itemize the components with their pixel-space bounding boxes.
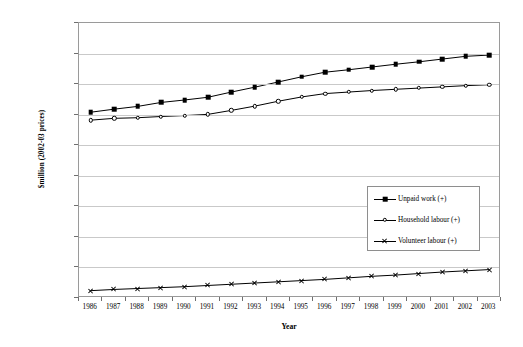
data-point-marker <box>393 272 399 278</box>
x-axis-tick-mark <box>195 297 196 301</box>
x-axis-tick-mark <box>336 297 337 301</box>
x-axis-tick-mark <box>289 297 290 301</box>
y-axis-tick-mark <box>74 266 78 267</box>
data-point-marker <box>205 282 211 288</box>
y-axis-title: $million (2002-03 prices) <box>38 69 46 229</box>
data-point-marker <box>135 104 140 109</box>
legend-marker-open-circle-icon <box>374 215 396 225</box>
x-axis-tick-mark <box>172 297 173 301</box>
data-point-marker <box>112 107 117 112</box>
data-point-marker <box>487 53 492 58</box>
data-point-marker <box>229 90 234 95</box>
data-point-marker <box>182 98 187 103</box>
gridline <box>79 145 499 146</box>
gridline <box>79 176 499 177</box>
x-axis-tick-mark <box>430 297 431 301</box>
data-point-marker <box>369 273 375 279</box>
legend-label: Volunteer labour (+) <box>398 237 457 245</box>
x-axis-tick-mark <box>219 297 220 301</box>
data-point-marker <box>416 271 422 277</box>
x-axis-tick-mark <box>242 297 243 301</box>
y-axis-tick-mark <box>74 22 78 23</box>
data-point-marker <box>299 278 305 284</box>
x-axis-tick-mark <box>148 297 149 301</box>
y-axis-tick-mark <box>74 205 78 206</box>
x-axis-tick-mark <box>312 297 313 301</box>
data-point-marker <box>206 95 211 100</box>
gridline <box>79 84 499 85</box>
data-point-marker <box>88 288 94 294</box>
data-point-marker <box>275 279 281 285</box>
data-point-marker <box>228 281 234 287</box>
data-point-marker <box>370 65 375 70</box>
gridline <box>79 115 499 116</box>
y-axis-tick-mark <box>74 83 78 84</box>
data-point-marker <box>417 60 422 65</box>
data-point-marker <box>439 269 445 275</box>
x-axis-tick-mark <box>406 297 407 301</box>
x-axis-tick-mark <box>453 297 454 301</box>
x-axis-title: Year <box>78 322 500 331</box>
data-point-marker <box>440 57 445 62</box>
data-point-marker <box>182 284 188 290</box>
series-line-layer <box>79 23 501 298</box>
legend-label: Household labour (+) <box>398 216 460 224</box>
legend-item-unpaid-work: Unpaid work (+) <box>374 193 446 205</box>
x-axis-tick-mark <box>359 297 360 301</box>
data-point-marker <box>393 62 398 67</box>
legend-label: Unpaid work (+) <box>398 195 446 203</box>
y-axis-tick-mark <box>74 144 78 145</box>
data-point-marker <box>346 67 351 72</box>
data-point-marker <box>135 286 141 292</box>
gridline <box>79 267 499 268</box>
data-point-marker <box>252 280 258 286</box>
plot-area: Unpaid work (+) Household labour (+) Vol… <box>78 22 500 297</box>
data-point-marker <box>463 268 469 274</box>
data-point-marker <box>464 54 469 59</box>
y-axis-tick-mark <box>74 175 78 176</box>
legend-marker-x-icon <box>374 236 396 246</box>
y-axis-tick-mark <box>74 236 78 237</box>
data-point-marker <box>299 74 304 79</box>
data-point-marker <box>323 70 328 75</box>
data-point-marker <box>111 286 117 292</box>
x-axis-tick-mark <box>78 297 79 301</box>
y-axis-tick-mark <box>74 114 78 115</box>
gridline <box>79 54 499 55</box>
x-axis-tick-mark <box>477 297 478 301</box>
x-axis-tick-mark <box>383 297 384 301</box>
chart-legend: Unpaid work (+) Household labour (+) Vol… <box>367 186 480 251</box>
legend-marker-filled-square-icon <box>374 194 396 204</box>
x-axis-tick-mark <box>266 297 267 301</box>
x-axis-tick-mark <box>101 297 102 301</box>
data-point-marker <box>253 85 258 90</box>
data-point-marker <box>346 275 352 281</box>
x-axis-tick-mark <box>500 297 501 301</box>
data-point-marker <box>486 267 492 273</box>
data-point-marker <box>159 100 164 105</box>
legend-item-household-labour: Household labour (+) <box>374 214 460 226</box>
x-axis-tick-mark <box>125 297 126 301</box>
legend-item-volunteer-labour: Volunteer labour (+) <box>374 235 457 247</box>
data-point-marker <box>322 276 328 282</box>
x-axis-tick-label: 2003 <box>468 303 508 311</box>
data-point-marker <box>88 110 93 115</box>
series-line <box>91 270 490 291</box>
line-chart: $million (2002-03 prices) Unpaid work (+… <box>0 0 523 347</box>
y-axis-tick-mark <box>74 53 78 54</box>
data-point-marker <box>276 80 281 85</box>
data-point-marker <box>158 285 164 291</box>
